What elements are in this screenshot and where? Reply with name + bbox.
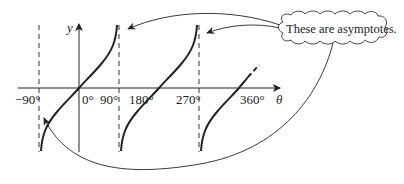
callout-cloud: These are asymptotes. xyxy=(279,11,397,44)
callout-text: These are asymptotes. xyxy=(286,22,397,36)
x-axis-label: θ xyxy=(276,92,283,107)
tick-90: 90° xyxy=(100,92,118,107)
callout-arrow-to-270 xyxy=(207,25,280,33)
tick-neg90: −90° xyxy=(15,92,41,107)
tick-180: 180° xyxy=(129,92,154,107)
y-axis-label: y xyxy=(65,20,73,35)
tick-0: 0° xyxy=(82,92,94,107)
tangent-graph: y θ −90° 0° 90° 180° 270° 360° These are… xyxy=(0,0,404,184)
callout-arrow-to-90 xyxy=(128,13,280,29)
tick-360: 360° xyxy=(240,92,265,107)
tick-270: 270° xyxy=(176,92,201,107)
tan-branch-3-dashed xyxy=(248,65,259,77)
